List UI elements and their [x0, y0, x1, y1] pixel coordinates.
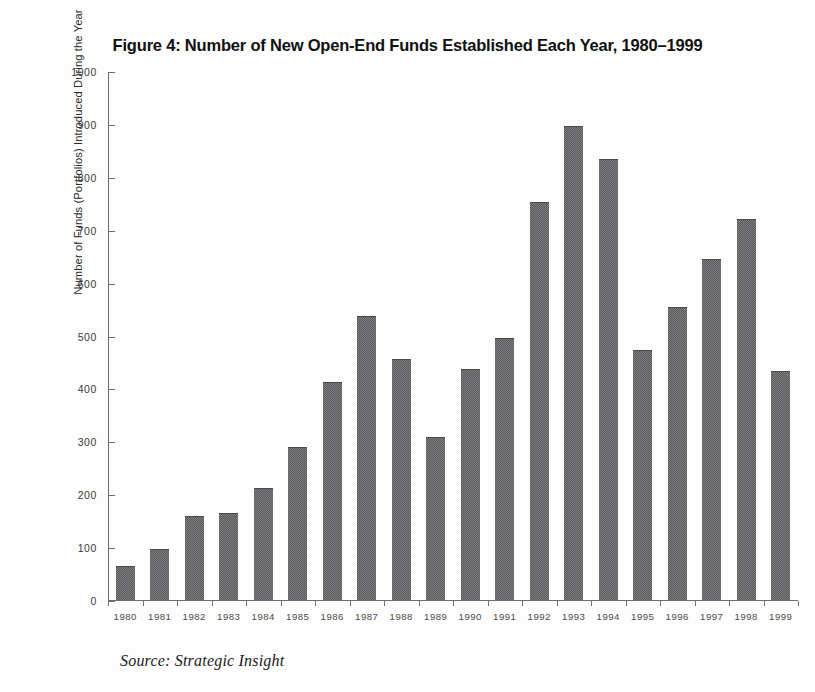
- x-axis-tick-label: 1998: [735, 611, 758, 622]
- x-axis-tick-labels: 1980198119821983198419851986198719881989…: [108, 601, 798, 625]
- bar-slot: [729, 72, 764, 600]
- bar-slot: [557, 72, 592, 600]
- bar-slot: [350, 72, 385, 600]
- bar[interactable]: [530, 202, 549, 600]
- bar[interactable]: [392, 359, 411, 600]
- bar[interactable]: [150, 549, 169, 600]
- x-axis-tick-label: 1994: [597, 611, 620, 622]
- x-axis-tick-label: 1980: [114, 611, 137, 622]
- bar-slot: [246, 72, 281, 600]
- bar-slot: [108, 72, 143, 600]
- x-axis-tick-label: 1996: [666, 611, 689, 622]
- bar-slot: [522, 72, 557, 600]
- y-axis-tick-label: 0: [91, 595, 97, 607]
- x-axis-tick-label: 1991: [493, 611, 516, 622]
- bar-slot: [453, 72, 488, 600]
- x-axis-tick-label: 1985: [286, 611, 309, 622]
- bar-slot: [143, 72, 178, 600]
- bar[interactable]: [599, 159, 618, 600]
- y-axis-tick-label: 100: [78, 542, 97, 554]
- y-axis-tick-label: 600: [78, 278, 97, 290]
- plot-area: 01002003004005006007008009001000: [108, 72, 798, 601]
- bar[interactable]: [495, 338, 514, 600]
- bar-series: [108, 72, 798, 600]
- bar[interactable]: [219, 513, 238, 600]
- x-axis-tick-label: 1988: [390, 611, 413, 622]
- x-axis-tick-label: 1986: [321, 611, 344, 622]
- y-axis-tick-label: 300: [78, 436, 97, 448]
- x-axis-tick-label: 1990: [459, 611, 482, 622]
- x-axis-tick-label: 1983: [217, 611, 240, 622]
- bar[interactable]: [737, 219, 756, 600]
- bar-slot: [764, 72, 799, 600]
- y-axis-tick-label: 400: [78, 383, 97, 395]
- figure-container: Figure 4: Number of New Open-End Funds E…: [0, 0, 815, 692]
- bar[interactable]: [426, 437, 445, 600]
- bar-slot: [281, 72, 316, 600]
- x-axis-tick-label: 1982: [183, 611, 206, 622]
- y-axis-tick-label: 700: [78, 225, 97, 237]
- x-axis-tick-label: 1999: [769, 611, 792, 622]
- y-axis-tick-label: 1000: [71, 66, 97, 78]
- x-axis-tick-label: 1997: [700, 611, 723, 622]
- x-axis-tick-label: 1993: [562, 611, 585, 622]
- bar-slot: [626, 72, 661, 600]
- bar-slot: [695, 72, 730, 600]
- bar-slot: [315, 72, 350, 600]
- x-axis-tick-label: 1995: [631, 611, 654, 622]
- y-axis-tick-label: 900: [78, 119, 97, 131]
- bar[interactable]: [357, 316, 376, 600]
- bar[interactable]: [564, 126, 583, 600]
- bar[interactable]: [254, 488, 273, 600]
- bar-slot: [660, 72, 695, 600]
- x-axis-tick-label: 1989: [424, 611, 447, 622]
- bar[interactable]: [461, 369, 480, 600]
- page-title: Figure 4: Number of New Open-End Funds E…: [0, 36, 815, 55]
- bar[interactable]: [323, 382, 342, 600]
- bar[interactable]: [702, 259, 721, 600]
- bar-slot: [212, 72, 247, 600]
- bar[interactable]: [288, 447, 307, 600]
- x-axis-tick: [798, 601, 799, 606]
- source-note: Source: Strategic Insight: [120, 652, 284, 670]
- bar-slot: [591, 72, 626, 600]
- y-axis-tick-label: 800: [78, 172, 97, 184]
- bar-slot: [419, 72, 454, 600]
- x-axis-tick-label: 1981: [148, 611, 171, 622]
- bar-slot: [177, 72, 212, 600]
- bar[interactable]: [771, 371, 790, 600]
- bar-slot: [488, 72, 523, 600]
- bar[interactable]: [668, 307, 687, 600]
- y-axis-tick-label: 200: [78, 489, 97, 501]
- x-axis-tick-label: 1992: [528, 611, 551, 622]
- bar[interactable]: [185, 516, 204, 600]
- bar[interactable]: [116, 566, 135, 600]
- y-axis-tick-label: 500: [78, 331, 97, 343]
- x-axis-tick-label: 1984: [252, 611, 275, 622]
- bar-slot: [384, 72, 419, 600]
- bar[interactable]: [633, 350, 652, 600]
- x-axis-tick-label: 1987: [355, 611, 378, 622]
